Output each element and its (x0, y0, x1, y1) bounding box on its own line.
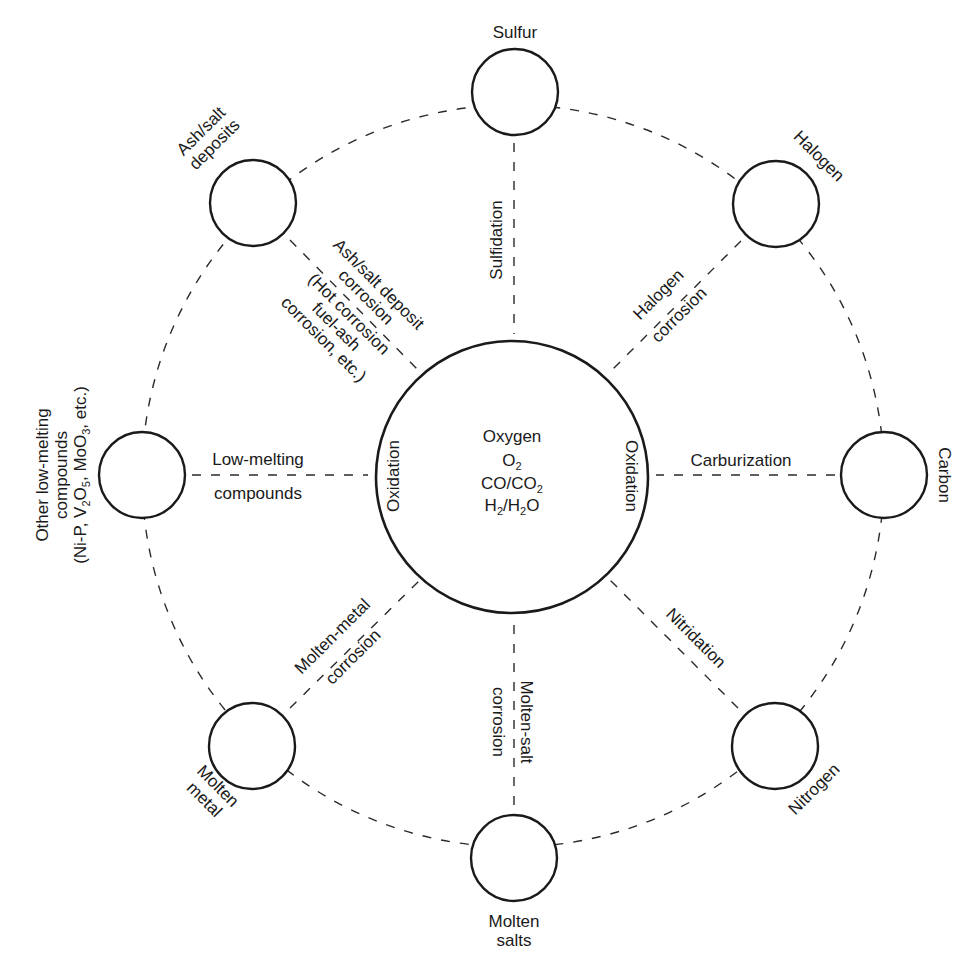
process-halogen-corrosion: Halogen corrosion (627, 263, 710, 346)
process-nitridation: Nitridation (662, 604, 730, 672)
node-sulfur (472, 49, 558, 135)
label-other-low-melting: Other low-melting compounds (Ni-P, V2O5,… (33, 386, 92, 564)
label-molten-salts: Molten salts (488, 912, 539, 950)
process-sulfidation: Sulfidation (487, 200, 506, 279)
node-nitrogen (732, 703, 818, 789)
node-other-low-melting (99, 432, 185, 518)
svg-text:corrosion: corrosion (489, 687, 508, 757)
node-carbon (841, 432, 927, 518)
node-halogen (733, 161, 819, 247)
node-molten-salts (471, 815, 557, 901)
low-melting-formula: (Ni-P, V2O5, MoO3, etc.) (71, 386, 92, 564)
center-title: Oxygen (483, 427, 542, 446)
process-low-melting-compounds: Low-melting compounds (212, 450, 304, 503)
svg-text:compounds: compounds (214, 484, 302, 503)
corrosion-environment-diagram: Oxygen O2 CO/CO2 H2/H2O Oxidation Oxidat… (0, 0, 978, 974)
label-carbon: Carbon (935, 447, 954, 503)
svg-text:salts: salts (497, 931, 532, 950)
process-molten-salt-corrosion: Molten-salt corrosion (489, 680, 536, 763)
svg-text:Molten-salt: Molten-salt (517, 680, 536, 763)
label-ash-salt: Ash/salt deposits (172, 102, 244, 174)
label-sulfur: Sulfur (493, 23, 538, 42)
process-carburization: Carburization (690, 451, 791, 470)
process-molten-metal-corrosion: Molten-metal corrosion (291, 595, 394, 698)
center-co-co2: CO/CO2 (481, 474, 543, 495)
svg-text:Other low-melting: Other low-melting (33, 408, 52, 541)
process-ash-salt-corrosion: Ash/salt deposit corrosion (Hot corrosio… (274, 235, 428, 389)
svg-text:compounds: compounds (52, 431, 71, 519)
oxidation-label-right: Oxidation (622, 440, 641, 512)
spoke-nitridation (610, 580, 738, 708)
oxidation-label-left: Oxidation (384, 440, 403, 512)
svg-text:Low-melting: Low-melting (212, 450, 304, 469)
svg-text:Molten: Molten (488, 912, 539, 931)
center-h2-h2o: H2/H2O (485, 496, 540, 517)
node-ash-salt (210, 160, 296, 246)
